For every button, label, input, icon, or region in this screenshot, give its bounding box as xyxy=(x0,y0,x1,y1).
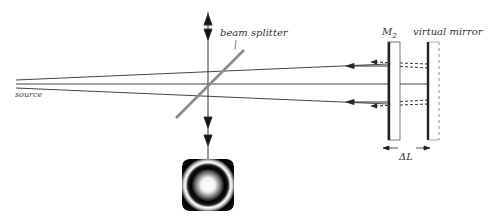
mirror-M2 xyxy=(388,42,400,140)
source-label: source xyxy=(15,90,42,99)
virtual-mirror xyxy=(428,42,439,140)
interference-pattern xyxy=(182,159,234,211)
delta-l-indicator xyxy=(383,146,430,150)
delta-l-label: ΔL xyxy=(398,151,413,162)
beam-splitter-label: beam splitter xyxy=(220,27,289,38)
virtual-mirror-label: virtual mirror xyxy=(413,26,484,37)
michelson-interferometer-diagram: beam splitter source M2 virtual mirror Δ… xyxy=(0,0,497,222)
source-beams xyxy=(16,64,428,104)
beam-splitter-leader xyxy=(235,40,236,50)
mirror-M2-label: M2 xyxy=(381,26,397,40)
